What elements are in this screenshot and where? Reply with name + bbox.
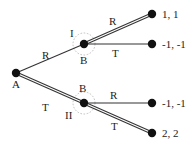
label-b-upper: B bbox=[80, 54, 87, 66]
label-edge-upper-t2: T bbox=[112, 47, 119, 59]
label-edge-lower-t4: T bbox=[111, 120, 118, 132]
label-edge-upper-t1: R bbox=[109, 15, 117, 27]
edge-root-lower-t bbox=[16, 73, 84, 103]
payoff-terminal-1: 1, 1 bbox=[162, 8, 179, 20]
node-b-lower bbox=[80, 99, 88, 107]
edge-upper-t1-r bbox=[84, 14, 152, 44]
label-info-upper: I bbox=[70, 27, 74, 39]
payoff-terminal-4: 2, 2 bbox=[162, 127, 179, 139]
node-terminal-4 bbox=[148, 129, 156, 137]
label-b-lower: B bbox=[79, 82, 86, 94]
game-tree: A I B B II R T R T R T 1, 1 -1, -1 -1, -… bbox=[0, 0, 193, 147]
payoff-terminal-2: -1, -1 bbox=[162, 38, 186, 50]
node-root bbox=[12, 69, 20, 77]
node-terminal-3 bbox=[148, 99, 156, 107]
edge-root-upper-r bbox=[16, 44, 84, 73]
payoff-terminal-3: -1, -1 bbox=[162, 97, 186, 109]
node-b-upper bbox=[80, 40, 88, 48]
label-info-lower: II bbox=[65, 109, 73, 121]
node-terminal-1 bbox=[148, 10, 156, 18]
label-edge-root-upper: R bbox=[42, 49, 50, 61]
label-edge-lower-t3: R bbox=[110, 89, 118, 101]
node-terminal-2 bbox=[148, 40, 156, 48]
edge-lower-t4-t bbox=[84, 103, 152, 133]
label-root: A bbox=[12, 78, 20, 90]
label-edge-root-lower: T bbox=[42, 101, 49, 113]
